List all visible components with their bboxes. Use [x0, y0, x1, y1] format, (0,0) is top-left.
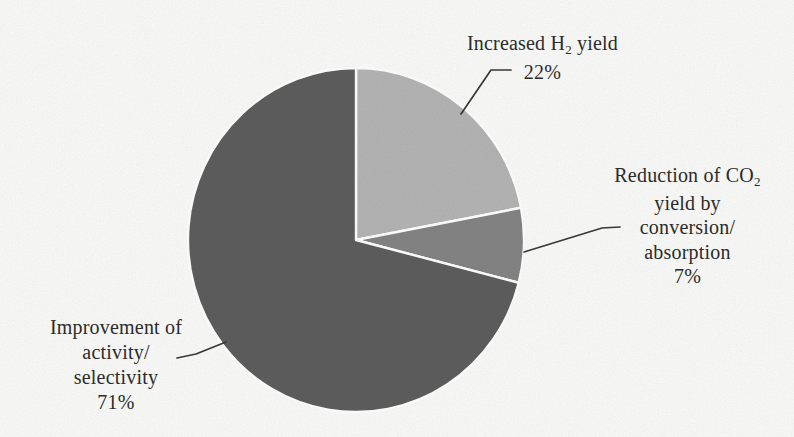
- label-text-part: yield: [572, 32, 618, 54]
- label-increased-h2-pct: 22%: [450, 59, 635, 86]
- label-reduction-co2-text: Reduction of CO2: [595, 163, 780, 191]
- label-improvement-line2: activity/: [25, 340, 207, 365]
- label-improvement-pct: 71%: [25, 390, 207, 415]
- label-text-part: Reduction of CO: [614, 164, 754, 186]
- scanned-figure-page: Increased H2 yield 22% Reduction of CO2 …: [0, 0, 794, 437]
- label-reduction-co2-line4: absorption: [595, 240, 780, 265]
- label-improvement-line3: selectivity: [25, 365, 207, 390]
- label-improvement-line1: Improvement of: [25, 315, 207, 340]
- subscript-2: 2: [565, 42, 572, 57]
- label-increased-h2-yield: Increased H2 yield 22%: [450, 30, 635, 86]
- label-reduction-co2-line3: conversion/: [595, 215, 780, 240]
- label-improvement: Improvement of activity/ selectivity 71%: [25, 315, 207, 415]
- label-reduction-co2-pct: 7%: [595, 264, 780, 289]
- label-increased-h2-yield-text: Increased H2 yield: [450, 30, 635, 59]
- subscript-2: 2: [754, 174, 761, 189]
- label-reduction-co2-line2: yield by: [595, 191, 780, 216]
- label-text-part: Increased H: [467, 32, 565, 54]
- label-reduction-co2: Reduction of CO2 yield by conversion/ ab…: [595, 163, 780, 289]
